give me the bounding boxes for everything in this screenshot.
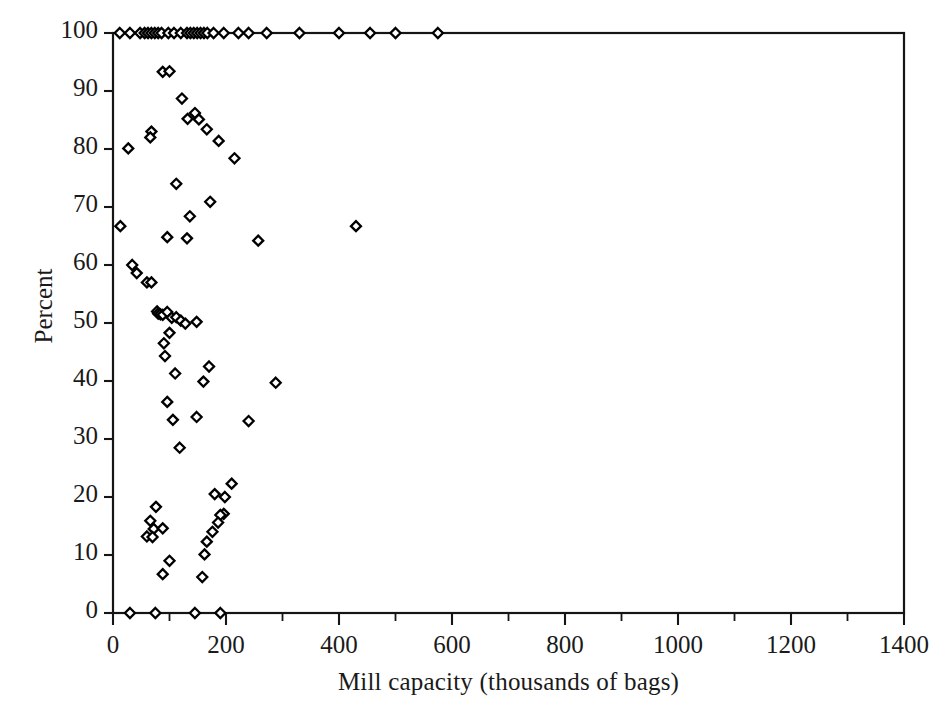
x-tick-label: 800 xyxy=(520,632,610,657)
data-point xyxy=(229,153,239,163)
y-axis-title: Percent xyxy=(30,246,58,366)
data-point xyxy=(158,569,168,579)
y-tick-label: 0 xyxy=(42,597,98,622)
data-point xyxy=(192,412,202,422)
data-point xyxy=(171,179,181,189)
data-point xyxy=(244,416,254,426)
y-tick-label: 80 xyxy=(42,133,98,158)
data-point xyxy=(227,479,237,489)
y-tick-label: 20 xyxy=(42,481,98,506)
data-point xyxy=(391,28,401,38)
plot-frame xyxy=(113,33,904,613)
data-point xyxy=(190,608,200,618)
data-point xyxy=(215,608,225,618)
data-point xyxy=(123,143,133,153)
data-point xyxy=(177,94,187,104)
data-point xyxy=(200,549,210,559)
data-point xyxy=(160,351,170,361)
data-point xyxy=(165,328,175,338)
data-point xyxy=(202,124,212,134)
data-point xyxy=(158,523,168,533)
x-tick-label: 600 xyxy=(407,632,497,657)
x-tick-label: 0 xyxy=(68,632,158,657)
data-point xyxy=(244,28,254,38)
data-point xyxy=(175,443,185,453)
data-point xyxy=(192,317,202,327)
y-tick-label: 70 xyxy=(42,191,98,216)
x-axis-title: Mill capacity (thousands of bags) xyxy=(113,668,904,696)
data-point xyxy=(220,492,230,502)
scatter-plot-figure: 0102030405060708090100 02004006008001000… xyxy=(0,0,936,726)
data-point xyxy=(253,236,263,246)
data-point xyxy=(214,136,224,146)
data-point xyxy=(219,28,229,38)
data-point-layer xyxy=(115,28,443,618)
data-point xyxy=(197,572,207,582)
data-point xyxy=(294,28,304,38)
data-point xyxy=(115,28,125,38)
data-point xyxy=(198,377,208,387)
data-point xyxy=(125,28,135,38)
x-tick-label: 400 xyxy=(294,632,384,657)
data-point xyxy=(151,502,161,512)
x-tick-label: 1400 xyxy=(859,632,936,657)
data-point xyxy=(170,368,180,378)
data-point xyxy=(334,28,344,38)
data-point xyxy=(168,415,178,425)
data-point xyxy=(150,608,160,618)
x-axis-tick-labels: 0200400600800100012001400 xyxy=(0,632,936,672)
data-point xyxy=(162,397,172,407)
data-point xyxy=(185,211,195,221)
x-tick-label: 200 xyxy=(181,632,271,657)
data-point xyxy=(202,537,212,547)
data-point xyxy=(162,232,172,242)
data-point xyxy=(365,28,375,38)
y-tick-label: 30 xyxy=(42,423,98,448)
data-point xyxy=(125,608,135,618)
data-point xyxy=(262,28,272,38)
x-tick-label: 1200 xyxy=(746,632,836,657)
y-tick-label: 10 xyxy=(42,539,98,564)
data-point xyxy=(115,221,125,231)
y-tick-label: 40 xyxy=(42,365,98,390)
x-tick-label: 1000 xyxy=(633,632,723,657)
data-point xyxy=(210,489,220,499)
y-tick-label: 90 xyxy=(42,75,98,100)
data-point xyxy=(207,527,217,537)
data-point xyxy=(433,28,443,38)
data-point xyxy=(271,378,281,388)
axis-ticks xyxy=(104,33,904,625)
data-point xyxy=(351,221,361,231)
data-point xyxy=(204,362,214,372)
plot-canvas xyxy=(0,0,936,726)
data-point xyxy=(159,338,169,348)
y-tick-label: 100 xyxy=(42,17,98,42)
data-point xyxy=(205,197,215,207)
data-point xyxy=(233,28,243,38)
data-point xyxy=(182,233,192,243)
data-point xyxy=(165,556,175,566)
